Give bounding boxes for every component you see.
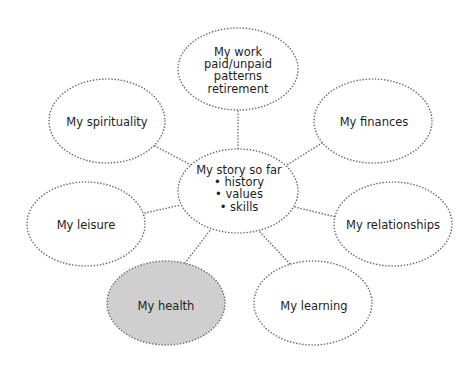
node-relationships-label: My relationships [346, 219, 440, 231]
center-bullet-skills: • skills [196, 200, 282, 212]
connector-leisure [145, 205, 181, 213]
node-work-label: My work paid/unpaid patterns retirement [204, 46, 272, 95]
node-finances-label: My finances [340, 116, 409, 128]
work-line-patterns: patterns [204, 70, 272, 82]
health-title: My health [138, 300, 195, 312]
center-bullet-values: • values [196, 188, 282, 200]
finances-title: My finances [340, 116, 409, 128]
connector-finances [287, 143, 322, 165]
node-leisure-label: My leisure [57, 219, 116, 231]
relationships-title: My relationships [346, 219, 440, 231]
connector-learning [260, 232, 290, 264]
node-spirituality-label: My spirituality [66, 116, 147, 128]
leisure-title: My leisure [57, 219, 116, 231]
node-learning-label: My learning [280, 300, 347, 312]
learning-title: My learning [280, 300, 347, 312]
spirituality-title: My spirituality [66, 116, 147, 128]
node-center-label: My story so far • history • values • ski… [196, 164, 282, 213]
connector-health [185, 229, 211, 263]
connector-spirituality [155, 146, 195, 167]
node-health-label: My health [138, 300, 195, 312]
connector-relationships [295, 207, 336, 217]
work-line-retirement: retirement [204, 82, 272, 94]
